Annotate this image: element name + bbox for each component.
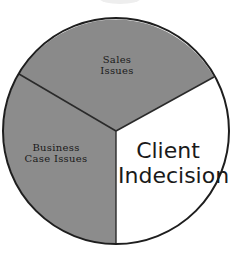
label-business-line1: Business xyxy=(18,142,94,153)
pie-chart xyxy=(0,0,233,260)
label-sales-issues: Sales Issues xyxy=(94,54,140,76)
label-sales-line1: Sales xyxy=(94,54,140,65)
label-business-case-issues: Business Case Issues xyxy=(18,142,94,164)
label-sales-line2: Issues xyxy=(94,65,140,76)
label-client-line1: Client xyxy=(118,138,218,163)
label-client-line2: Indecision xyxy=(118,163,218,188)
label-client-indecision: Client Indecision xyxy=(118,138,218,189)
label-business-line2: Case Issues xyxy=(18,153,94,164)
